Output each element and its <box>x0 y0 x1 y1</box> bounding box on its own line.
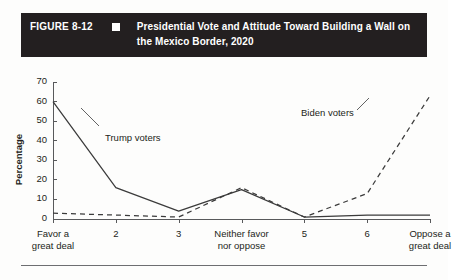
x-tick-mark-0 <box>53 219 54 223</box>
plot-region: 010203040506070 Favor agreat deal23Neith… <box>53 82 430 219</box>
x-tick-label-6: Oppose agreat deal <box>387 228 456 251</box>
chart-area: Percentage 010203040506070 Favor agreat … <box>0 62 448 257</box>
annotation-leader-lines <box>53 82 430 219</box>
x-tick-mark-4 <box>304 219 305 223</box>
figure-header-bar: FIGURE 8-12 Presidential Vote and Attitu… <box>21 13 427 57</box>
x-tick-mark-5 <box>367 219 368 223</box>
y-tick-label: 40 <box>36 134 47 145</box>
y-tick-label: 50 <box>36 114 47 125</box>
x-tick-mark-6 <box>430 219 431 223</box>
x-tick-mark-1 <box>116 219 117 223</box>
bottom-divider <box>21 265 427 266</box>
white-square-icon <box>112 23 120 31</box>
y-tick-label: 0 <box>42 212 47 223</box>
y-tick-label: 70 <box>36 75 47 86</box>
y-tick-label: 60 <box>36 95 47 106</box>
figure-number: FIGURE 8-12 <box>30 20 93 32</box>
figure-title: Presidential Vote and Attitude Toward Bu… <box>137 20 419 49</box>
y-tick-label: 30 <box>36 153 47 164</box>
annotation-trump-voters: Trump voters <box>105 132 161 143</box>
y-axis-title: Percentage <box>13 120 24 200</box>
x-tick-mark-3 <box>242 219 243 223</box>
y-tick-label: 10 <box>36 192 47 203</box>
x-tick-mark-2 <box>179 219 180 223</box>
annotation-biden-voters: Biden voters <box>301 107 354 118</box>
y-tick-label: 20 <box>36 173 47 184</box>
